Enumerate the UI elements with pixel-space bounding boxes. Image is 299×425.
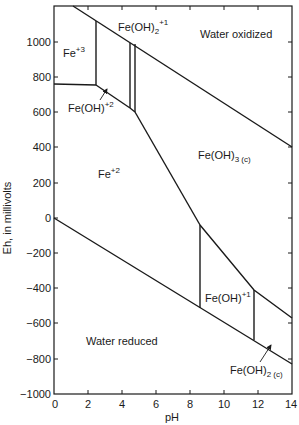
region-label-feohplus1: Fe(OH)+1 (205, 290, 251, 304)
x-tick-label: 4 (119, 398, 125, 410)
y-axis (54, 42, 292, 359)
x-tick-label: 14 (285, 398, 297, 410)
y-tick-label: −800 (26, 353, 51, 365)
feoh2plus-fe2-boundary (130, 108, 135, 112)
y-tick-label: 1000 (27, 36, 51, 48)
fe3-fe2-boundary (54, 84, 96, 85)
y-tick-label: 800 (33, 71, 51, 83)
x-tick-label: 12 (252, 398, 264, 410)
region-label-feoh2c: Fe(OH)2 (c) (230, 364, 283, 379)
x-axis-title: pH (165, 411, 179, 423)
y-axis-title: Eh, in millivolts (1, 181, 13, 254)
y-tick-label: 200 (33, 177, 51, 189)
region-label-feoh3c: Fe(OH)3 (c) (198, 149, 251, 164)
y-tick-label: 0 (45, 212, 51, 224)
y-tick-label: −1000 (20, 388, 51, 400)
y-tick-label: 400 (33, 141, 51, 153)
eh-ph-diagram: 1000 800 600 400 200 0 −200 −400 −600 −8… (0, 0, 299, 425)
x-tick-label: 10 (218, 398, 230, 410)
x-tick-label: 8 (187, 398, 193, 410)
x-tick-label: 6 (153, 398, 159, 410)
region-label-fe2: Fe+2 (98, 166, 121, 180)
y-tick-label: −600 (26, 317, 51, 329)
x-tick-label: 0 (52, 398, 58, 410)
y-tick-label: −400 (26, 282, 51, 294)
region-label-fe3: Fe+3 (63, 45, 86, 59)
y-tick-label: −200 (26, 247, 51, 259)
fe2-feoh3-boundary (135, 112, 200, 225)
y-tick-label: 600 (33, 106, 51, 118)
y-tick-labels: 1000 800 600 400 200 0 −200 −400 −600 −8… (20, 36, 51, 400)
x-tick-label: 2 (85, 398, 91, 410)
region-label-water-oxidized: Water oxidized (200, 28, 272, 40)
region-label-feoh2plus1: Fe(OH)2+1 (118, 18, 169, 36)
region-label-water-reduced: Water reduced (86, 335, 158, 347)
x-tick-labels: 0 2 4 6 8 10 12 14 (52, 398, 297, 410)
feoh-feoh3-boundary (200, 225, 292, 318)
stability-boundaries (54, 6, 292, 364)
region-label-feoh2: Fe(OH)+2 (68, 100, 114, 114)
